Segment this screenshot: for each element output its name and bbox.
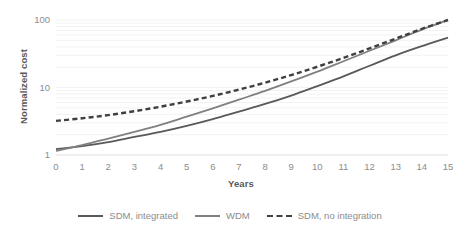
y-tick-label: 1 xyxy=(24,149,50,160)
legend-line-icon xyxy=(78,215,103,217)
chart-legend: SDM, integratedWDMSDM, no integration xyxy=(0,210,460,221)
legend-item[interactable]: SDM, no integration xyxy=(267,210,382,221)
x-tick-label: 13 xyxy=(384,161,408,172)
x-tick-label: 15 xyxy=(436,161,460,172)
x-tick-label: 9 xyxy=(279,161,303,172)
x-tick-label: 14 xyxy=(410,161,434,172)
plot-area xyxy=(0,0,460,236)
legend-line-icon xyxy=(267,215,292,217)
x-tick-label: 1 xyxy=(70,161,94,172)
legend-item[interactable]: WDM xyxy=(195,210,250,221)
legend-label: SDM, no integration xyxy=(298,210,382,221)
x-tick-label: 12 xyxy=(358,161,382,172)
legend-line-icon xyxy=(195,215,220,217)
x-tick-label: 11 xyxy=(331,161,355,172)
x-tick-label: 7 xyxy=(227,161,251,172)
legend-label: SDM, integrated xyxy=(109,210,178,221)
x-tick-label: 6 xyxy=(201,161,225,172)
x-tick-label: 4 xyxy=(149,161,173,172)
x-tick-label: 10 xyxy=(305,161,329,172)
x-tick-label: 2 xyxy=(96,161,120,172)
y-tick-label: 100 xyxy=(24,14,50,25)
x-tick-label: 3 xyxy=(122,161,146,172)
y-tick-label: 10 xyxy=(24,82,50,93)
x-tick-label: 0 xyxy=(44,161,68,172)
line-chart: Normalized cost 110100 01234567891011121… xyxy=(0,0,460,236)
x-axis-title: Years xyxy=(206,178,276,189)
x-tick-label: 5 xyxy=(175,161,199,172)
x-tick-label: 8 xyxy=(253,161,277,172)
legend-label: WDM xyxy=(226,210,250,221)
series-line xyxy=(56,38,448,150)
legend-item[interactable]: SDM, integrated xyxy=(78,210,178,221)
